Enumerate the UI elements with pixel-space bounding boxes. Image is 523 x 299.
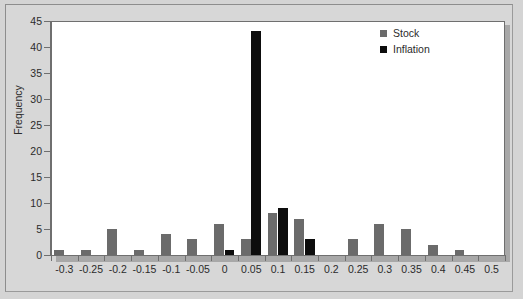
y-tick-label: 0 [0, 250, 42, 260]
x-tick-label: 0.2 [324, 263, 339, 275]
y-tick-mark [44, 177, 50, 178]
x-tick-mark [185, 256, 186, 261]
y-axis-title: Frequency [12, 65, 24, 155]
bar-stock-0.3 [374, 224, 384, 255]
y-tick-label: 10 [0, 198, 42, 208]
x-tick-label: 0.05 [241, 263, 261, 275]
bar-stock-0.15 [294, 219, 304, 255]
x-tick-label: 0.45 [455, 263, 475, 275]
bar-inflation-0.05 [251, 31, 261, 255]
x-tick-label: 0.15 [294, 263, 314, 275]
legend-label: Stock [393, 28, 419, 39]
x-tick-mark [158, 256, 159, 261]
x-tick-label: -0.3 [55, 263, 73, 275]
x-tick-mark [425, 256, 426, 261]
y-tick-label: 30 [0, 94, 42, 104]
y-tick-mark [44, 47, 50, 48]
x-tick-label: -0.05 [186, 263, 210, 275]
x-tick-mark [478, 256, 479, 261]
y-tick-label: 40 [0, 42, 42, 52]
x-tick-label: 0.1 [271, 263, 286, 275]
x-tick-mark [371, 256, 372, 261]
bar-stock-0.05 [241, 239, 251, 255]
bar-stock-0 [214, 224, 224, 255]
x-tick-label: -0.25 [79, 263, 103, 275]
y-tick-mark [44, 229, 50, 230]
x-axis-line [50, 255, 506, 256]
x-tick-mark [318, 256, 319, 261]
y-tick-label: 25 [0, 120, 42, 130]
x-tick-label: 0.4 [431, 263, 446, 275]
bar-stock--0.25 [81, 250, 91, 255]
y-tick-label: 15 [0, 172, 42, 182]
bar-inflation-0 [225, 250, 235, 255]
bar-stock--0.2 [107, 229, 117, 255]
bars-layer [51, 21, 505, 255]
bar-stock-0.45 [455, 250, 465, 255]
bar-stock-0.4 [428, 245, 438, 255]
x-tick-mark [265, 256, 266, 261]
y-tick-mark [44, 125, 50, 126]
x-tick-mark [452, 256, 453, 261]
bar-stock--0.05 [187, 239, 197, 255]
y-tick-mark [44, 73, 50, 74]
x-tick-label: 0 [222, 263, 228, 275]
legend-swatch-inflation [380, 46, 387, 53]
x-tick-mark [238, 256, 239, 261]
x-tick-mark [211, 256, 212, 261]
legend-item-inflation[interactable]: Inflation [380, 44, 430, 55]
bar-stock-0.35 [401, 229, 411, 255]
x-tick-mark [398, 256, 399, 261]
y-tick-mark [44, 255, 50, 256]
bar-stock-0.1 [268, 213, 278, 255]
y-tick-mark [44, 99, 50, 100]
bar-stock-0.25 [348, 239, 358, 255]
legend-label: Inflation [393, 44, 430, 55]
bar-stock--0.1 [161, 234, 171, 255]
y-tick-mark [44, 151, 50, 152]
x-tick-label: -0.2 [109, 263, 127, 275]
bar-inflation-0.1 [278, 208, 288, 255]
x-tick-mark [345, 256, 346, 261]
y-tick-mark [44, 203, 50, 204]
legend-item-stock[interactable]: Stock [380, 28, 430, 39]
bar-stock--0.3 [54, 250, 64, 255]
bar-inflation-0.15 [305, 239, 315, 255]
histogram-figure: Frequency 051015202530354045 -0.3-0.25-0… [0, 0, 523, 299]
x-tick-label: -0.1 [162, 263, 180, 275]
x-tick-label: 0.3 [378, 263, 393, 275]
x-tick-mark [291, 256, 292, 261]
legend: StockInflation [380, 28, 430, 60]
x-tick-mark [78, 256, 79, 261]
x-tick-label: 0.35 [401, 263, 421, 275]
x-tick-label: 0.25 [348, 263, 368, 275]
x-tick-mark [131, 256, 132, 261]
x-tick-label: -0.15 [133, 263, 157, 275]
legend-swatch-stock [380, 30, 387, 37]
y-tick-label: 45 [0, 16, 42, 26]
x-tick-mark [505, 256, 506, 261]
x-tick-label: 0.5 [484, 263, 499, 275]
y-tick-mark [44, 21, 50, 22]
bar-stock--0.15 [134, 250, 144, 255]
x-tick-mark [104, 256, 105, 261]
x-tick-mark [51, 256, 52, 261]
y-tick-label: 5 [0, 224, 42, 234]
y-tick-label: 20 [0, 146, 42, 156]
y-tick-label: 35 [0, 68, 42, 78]
